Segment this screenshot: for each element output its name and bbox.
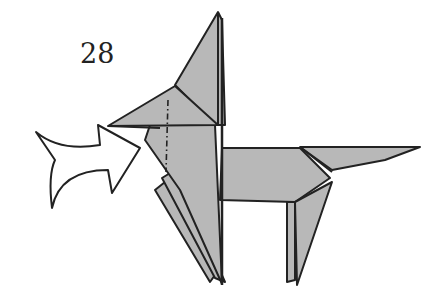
push-arrow-icon bbox=[36, 125, 140, 208]
origami-diagram bbox=[0, 0, 448, 299]
dog-rear-leg-back bbox=[287, 202, 295, 282]
